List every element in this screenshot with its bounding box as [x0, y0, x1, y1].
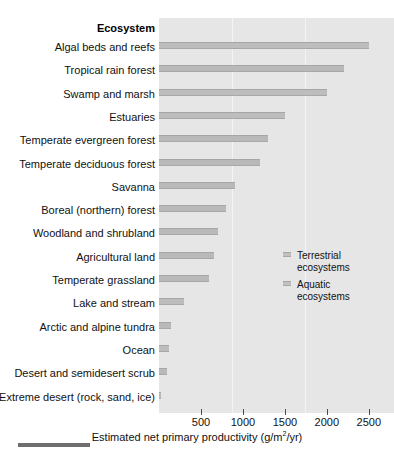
bar-row: Extreme desert (rock, sand, ice): [0, 391, 394, 414]
bar-row-label: Agricultural land: [0, 251, 155, 263]
bar-row: Woodland and shrubland: [0, 227, 394, 250]
bar-row: Temperate deciduous forest: [0, 158, 394, 181]
bar-row-label: Ocean: [0, 344, 155, 356]
x-tick-mark: [285, 409, 286, 415]
bar-row-label: Woodland and shrubland: [0, 227, 155, 239]
bar-row: Algal beds and reefs: [0, 41, 394, 64]
x-tick-label: 500: [181, 416, 221, 428]
bar-row-label: Algal beds and reefs: [0, 41, 155, 53]
bar-row: Desert and semidesert scrub: [0, 367, 394, 390]
bar: [159, 112, 285, 119]
legend-label-line2: ecosystems: [297, 291, 350, 303]
bar-row-label: Arctic and alpine tundra: [0, 321, 155, 333]
y-axis-title: Ecosystem: [97, 22, 155, 34]
chart-container: Ecosystem Algal beds and reefsTropical r…: [0, 0, 394, 456]
bar-row: Boreal (northern) forest: [0, 204, 394, 227]
bar: [159, 345, 169, 352]
legend-label-line1: Aquatic: [297, 279, 350, 291]
bar-row-label: Swamp and marsh: [0, 88, 155, 100]
x-axis-title-prefix: Estimated net primary productivity (g/m: [92, 431, 283, 443]
bar-row: Arctic and alpine tundra: [0, 321, 394, 344]
x-tick-mark: [327, 409, 328, 415]
bar: [159, 322, 171, 329]
x-tick-label: 2500: [349, 416, 389, 428]
x-axis-title-suffix: /yr): [286, 431, 302, 443]
legend-item-aquatic: Aquatic ecosystems: [283, 279, 350, 302]
bar-row-label: Extreme desert (rock, sand, ice): [0, 391, 155, 403]
x-tick-mark: [201, 409, 202, 415]
bar: [159, 159, 260, 166]
legend-swatch-icon: [283, 281, 291, 286]
bar-row-label: Temperate evergreen forest: [0, 134, 155, 146]
footer-rule: [18, 443, 90, 447]
bar-row-label: Savanna: [0, 181, 155, 193]
legend-swatch-icon: [283, 252, 291, 257]
x-tick-label: 2000: [307, 416, 347, 428]
bar-row-label: Desert and semidesert scrub: [0, 367, 155, 379]
x-axis-title: Estimated net primary productivity (g/m2…: [0, 430, 394, 443]
bar-row-label: Temperate deciduous forest: [0, 158, 155, 170]
bar: [159, 228, 218, 235]
bar-row: Savanna: [0, 181, 394, 204]
legend: Terrestrial ecosystems Aquatic ecosystem…: [283, 250, 350, 308]
bar: [159, 275, 209, 282]
bar-row-label: Boreal (northern) forest: [0, 204, 155, 216]
bar-row: Tropical rain forest: [0, 64, 394, 87]
bar-row: Estuaries: [0, 111, 394, 134]
bar-row: Temperate evergreen forest: [0, 134, 394, 157]
x-tick-label: 1000: [223, 416, 263, 428]
bar-row-label: Tropical rain forest: [0, 64, 155, 76]
bar: [159, 182, 235, 189]
bar-row-label: Temperate grassland: [0, 274, 155, 286]
bar: [159, 42, 369, 49]
bar-row-label: Estuaries: [0, 111, 155, 123]
bar: [159, 65, 344, 72]
bar: [159, 205, 226, 212]
x-tick-mark: [369, 409, 370, 415]
bar-row-label: Lake and stream: [0, 297, 155, 309]
x-tick-mark: [243, 409, 244, 415]
bar-row: Swamp and marsh: [0, 88, 394, 111]
bar: [159, 135, 268, 142]
legend-item-terrestrial: Terrestrial ecosystems: [283, 250, 350, 273]
x-tick-label: 1500: [265, 416, 305, 428]
bar: [159, 89, 327, 96]
legend-label-line2: ecosystems: [297, 262, 350, 274]
bar: [159, 252, 214, 259]
legend-label-line1: Terrestrial: [297, 250, 350, 262]
bar: [159, 392, 161, 399]
bar-row: Ocean: [0, 344, 394, 367]
bar: [159, 368, 167, 375]
bar: [159, 298, 184, 305]
